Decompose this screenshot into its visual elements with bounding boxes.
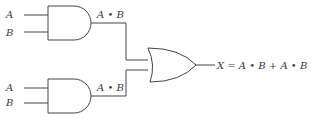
and-gate-bottom: A B A • B (5, 70, 148, 113)
and-gate-body-bottom (48, 79, 91, 113)
or-gate-body (148, 48, 196, 82)
or-gate: X = A • B + A • B (148, 48, 307, 82)
and-gate-top: A B A • B (5, 6, 148, 60)
input-b-label-top: B (5, 27, 13, 38)
logic-circuit-diagram: A B A • B A B A • B X = A • B + A • B (0, 0, 311, 119)
and-gate-body-top (48, 6, 91, 40)
and-output-label-bottom: A • B (96, 82, 124, 93)
input-a-label-bottom: A (5, 82, 13, 93)
or-output-expression: X = A • B + A • B (216, 60, 307, 71)
input-b-label-bottom: B (5, 97, 13, 108)
and-output-wire-top (91, 23, 148, 60)
input-a-label-top: A (5, 9, 13, 20)
and-output-label-top: A • B (96, 9, 124, 20)
